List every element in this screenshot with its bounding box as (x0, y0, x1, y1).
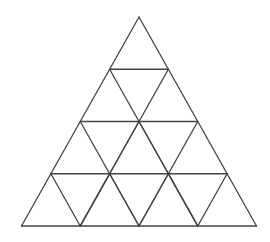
diagonal-grid-line (80, 174, 109, 226)
diagonal-grid-line (168, 174, 197, 226)
diagonal-grid-line (110, 174, 139, 226)
diagonal-grid-line (51, 174, 80, 226)
diagonal-grid-line (198, 174, 227, 226)
diagonal-grid-line (139, 174, 168, 226)
triangle-grid-diagram (0, 0, 270, 242)
